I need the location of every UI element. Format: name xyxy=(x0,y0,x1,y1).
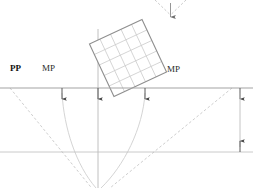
diagonal-right-line xyxy=(99,88,232,188)
perspective-diagram: PP MP MP xyxy=(0,0,253,188)
diagram-canvas xyxy=(0,0,253,188)
curve-left-path xyxy=(62,93,96,188)
curved-measuring-lines xyxy=(62,93,145,188)
picture-plane-ticks xyxy=(62,88,240,99)
top-dash-left-line xyxy=(155,0,171,15)
top-dash-right-line xyxy=(171,0,187,15)
dashed-diagonals xyxy=(10,88,232,188)
curve-right-path xyxy=(101,93,145,188)
rotated-grid-square xyxy=(89,19,166,96)
grid-background xyxy=(89,19,166,96)
top-vanishing-convergence xyxy=(155,0,186,17)
